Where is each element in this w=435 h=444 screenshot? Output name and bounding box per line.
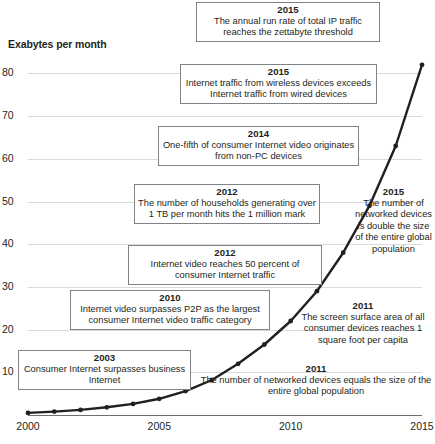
annotation-body: Consumer Internet surpasses business Int…	[22, 364, 187, 387]
annotation-year: 2003	[22, 352, 187, 364]
data-point-marker	[157, 396, 162, 401]
annotation-callout: 2010 Internet video surpasses P2P as the…	[70, 290, 270, 330]
data-point-marker	[52, 409, 57, 414]
x-axis-tick-label: 2010	[279, 420, 302, 432]
data-point-marker	[420, 62, 425, 67]
annotation-body: The number of networked devices is doubl…	[354, 198, 433, 255]
x-axis-tick-label: 2005	[148, 420, 171, 432]
annotation-body: Internet traffic from wireless devices e…	[184, 78, 373, 101]
y-axis-tick-label: 40	[2, 238, 24, 248]
y-axis-tick-label: 50	[2, 196, 24, 206]
annotation-year: 2011	[292, 300, 434, 312]
y-axis-tick-label: 80	[2, 67, 24, 77]
annotation-callout: 2011 The screen surface area of all cons…	[292, 300, 434, 346]
y-axis-tick-label: 30	[2, 281, 24, 291]
annotation-body: Internet video surpasses P2P as the larg…	[74, 304, 266, 327]
data-point-marker	[104, 405, 109, 410]
annotation-callout: 2012 Internet video reaches 50 percent o…	[128, 245, 322, 285]
data-point-marker	[78, 408, 83, 413]
annotation-callout: 2015 The annual run rate of total IP tra…	[196, 2, 380, 42]
data-point-marker	[393, 144, 398, 149]
annotation-body: The screen surface area of all consumer …	[292, 312, 434, 346]
annotation-year: 2015	[184, 66, 373, 78]
chart-container: Exabytes per month 1020304050607080 2000…	[0, 0, 435, 444]
annotation-callout: 2014 One-fifth of consumer Internet vide…	[158, 126, 359, 166]
data-point-marker	[26, 411, 31, 416]
annotation-year: 2015	[354, 186, 433, 198]
annotation-body: The number of households generating over…	[138, 198, 316, 221]
annotation-body: Internet video reaches 50 percent of con…	[132, 259, 318, 282]
data-point-marker	[262, 342, 267, 347]
annotation-body: The number of networked devices equals t…	[197, 375, 435, 398]
data-point-marker	[131, 402, 136, 407]
annotation-callout: 2012 The number of households generating…	[134, 184, 320, 224]
annotation-year: 2012	[132, 247, 318, 259]
data-point-marker	[341, 250, 346, 255]
annotation-year: 2015	[200, 4, 376, 16]
annotation-year: 2010	[74, 292, 266, 304]
x-axis-tick-label: 2000	[16, 420, 39, 432]
y-axis-title: Exabytes per month	[8, 38, 107, 50]
annotation-year: 2014	[162, 128, 355, 140]
x-axis-line	[28, 415, 422, 416]
annotation-callout: 2003 Consumer Internet surpasses busines…	[18, 350, 191, 390]
x-axis-tick-label: 2015	[410, 420, 433, 432]
annotation-body: The annual run rate of total IP traffic …	[200, 16, 376, 39]
annotation-year: 2011	[197, 363, 435, 375]
y-axis-tick-label: 60	[2, 153, 24, 163]
annotation-year: 2012	[138, 186, 316, 198]
annotation-callout: 2011 The number of networked devices equ…	[197, 363, 435, 398]
data-point-marker	[315, 289, 320, 294]
y-axis-tick-label: 70	[2, 110, 24, 120]
annotation-body: One-fifth of consumer Internet video ori…	[162, 140, 355, 163]
annotation-callout: 2015 Internet traffic from wireless devi…	[180, 64, 377, 104]
annotation-callout: 2015 The number of networked devices is …	[354, 186, 433, 255]
y-axis-tick-label: 20	[2, 324, 24, 334]
